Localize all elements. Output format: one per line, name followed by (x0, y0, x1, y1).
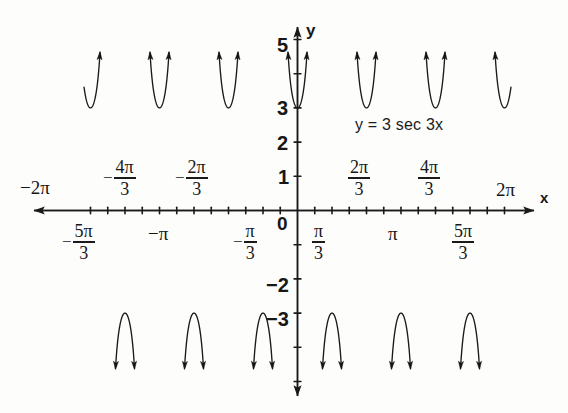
x-axis-label: x (540, 190, 548, 205)
denominator: 3 (418, 180, 440, 198)
x-tick-label-5pi-3: 5π 3 (452, 222, 474, 262)
origin-label: 0 (277, 214, 288, 233)
secant-branch (150, 53, 169, 108)
coordinate-plot-svg (0, 0, 568, 413)
denominator: 3 (114, 180, 136, 198)
denominator: 3 (312, 244, 325, 262)
numerator: 5π (452, 222, 474, 240)
minus-sign: − (175, 169, 185, 188)
equation-annotation: y = 3 sec 3x (355, 117, 443, 133)
secant-branch (84, 53, 100, 108)
x-tick-label-neg-4pi-3: − 4π 3 (103, 158, 136, 198)
graph-figure: 5 3 2 1 −2 −3 0 y x y = 3 sec 3x −2π − 4… (0, 0, 568, 413)
y-tick-label-5: 5 (277, 35, 288, 55)
secant-branch (323, 313, 342, 368)
denominator: 3 (73, 244, 95, 262)
x-tick-label-neg-5pi-3: − 5π 3 (62, 222, 95, 262)
y-tick-label-neg2: −2 (266, 275, 289, 295)
numerator: 4π (114, 158, 136, 176)
minus-sign: − (233, 233, 243, 252)
numerator: 5π (73, 222, 95, 240)
x-tick-label-2pi-3: 2π 3 (348, 158, 370, 198)
y-tick-label-neg3: −3 (266, 309, 289, 329)
secant-branch (357, 53, 376, 108)
secant-branch (116, 313, 135, 368)
y-axis-label: y (306, 22, 315, 39)
x-tick-label-2pi: 2π (496, 180, 515, 199)
y-tick-label-3: 3 (277, 98, 288, 118)
secant-branch (219, 53, 238, 108)
secant-branch (461, 313, 480, 368)
x-tick-label-neg-pi: −π (148, 224, 168, 243)
denominator: 3 (452, 244, 474, 262)
x-tick-label-neg-2pi-3: − 2π 3 (175, 158, 208, 198)
denominator: 3 (186, 180, 208, 198)
secant-branch (495, 53, 511, 108)
denominator: 3 (244, 244, 257, 262)
minus-sign: − (62, 233, 72, 252)
secant-branch (185, 313, 204, 368)
numerator: π (244, 222, 257, 240)
x-tick-label-neg-2pi: −2π (20, 178, 50, 197)
x-tick-label-pi: π (388, 224, 398, 243)
minus-sign: − (103, 169, 113, 188)
numerator: 2π (348, 158, 370, 176)
y-tick-label-2: 2 (277, 133, 288, 153)
secant-branch (392, 313, 411, 368)
axes-group (34, 27, 534, 396)
numerator: 4π (418, 158, 440, 176)
numerator: π (312, 222, 325, 240)
x-tick-label-pi-3: π 3 (312, 222, 325, 262)
secant-branch (426, 53, 445, 108)
numerator: 2π (186, 158, 208, 176)
x-tick-label-neg-pi-3: − π 3 (233, 222, 257, 262)
denominator: 3 (348, 180, 370, 198)
y-tick-label-1: 1 (278, 167, 289, 187)
x-tick-label-4pi-3: 4π 3 (418, 158, 440, 198)
